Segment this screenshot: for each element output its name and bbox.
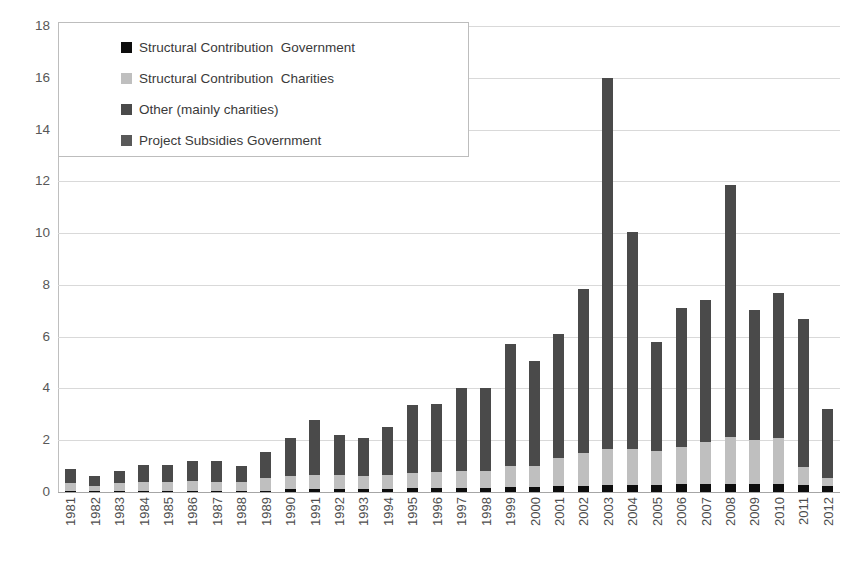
stacked-bar — [162, 465, 173, 492]
x-axis-tick-cell: 1999 — [498, 495, 522, 557]
bar-segment — [822, 409, 833, 478]
bar-segment — [114, 483, 125, 491]
bar-segment — [651, 485, 662, 492]
bar-segment — [553, 486, 564, 492]
bar-segment — [309, 489, 320, 492]
x-axis-tick-cell: 2003 — [596, 495, 620, 557]
x-axis-tick-cell: 1992 — [327, 495, 351, 557]
bar-column — [596, 26, 620, 492]
bar-segment — [553, 458, 564, 486]
x-axis-tick-label: 2007 — [699, 497, 712, 526]
y-axis-tick-label: 4 — [6, 382, 50, 396]
legend-item[interactable]: Project Subsidies Government — [59, 125, 468, 156]
bar-segment — [431, 404, 442, 472]
x-axis-tick-cell: 1995 — [400, 495, 424, 557]
x-axis-tick-label: 1987 — [210, 497, 223, 526]
bar-segment — [798, 467, 809, 485]
x-axis-tick-label: 2005 — [650, 497, 663, 526]
bar-segment — [162, 482, 173, 491]
bar-column — [693, 26, 717, 492]
bar-segment — [382, 427, 393, 474]
bar-segment — [578, 486, 589, 492]
bar-segment — [578, 453, 589, 485]
stacked-bar — [822, 409, 833, 492]
bar-column — [473, 26, 497, 492]
bar-segment — [187, 481, 198, 491]
bar-segment — [334, 435, 345, 475]
x-axis-tick-cell: 2011 — [791, 495, 815, 557]
bar-segment — [431, 472, 442, 488]
stacked-bar — [676, 308, 687, 492]
bar-column — [645, 26, 669, 492]
bar-segment — [651, 451, 662, 485]
x-axis-tick-cell: 2006 — [669, 495, 693, 557]
x-axis-tick-cell: 2012 — [816, 495, 840, 557]
stacked-bar — [749, 310, 760, 493]
x-axis-tick-cell: 1993 — [351, 495, 375, 557]
x-axis-tick-cell: 2002 — [571, 495, 595, 557]
legend-item-label: Other (mainly charities) — [139, 103, 279, 117]
bar-segment — [627, 449, 638, 485]
x-axis-tick-cell: 2004 — [620, 495, 644, 557]
stacked-bar — [334, 435, 345, 492]
bar-segment — [260, 452, 271, 478]
legend-item-label: Project Subsidies Government — [139, 134, 321, 148]
x-axis-tick-cell: 2001 — [547, 495, 571, 557]
bar-segment — [773, 438, 784, 485]
bar-segment — [602, 449, 613, 485]
bar-segment — [236, 491, 247, 492]
x-axis-tick-label: 1985 — [161, 497, 174, 526]
legend-item[interactable]: Other (mainly charities) — [59, 94, 468, 125]
x-axis-tick-cell: 1991 — [302, 495, 326, 557]
y-axis-tick-label: 14 — [6, 123, 50, 137]
bar-column — [767, 26, 791, 492]
bar-segment — [676, 308, 687, 447]
stacked-bar — [114, 471, 125, 492]
bar-segment — [65, 491, 76, 492]
y-axis-tick-label: 18 — [6, 19, 50, 33]
stacked-bar — [187, 461, 198, 492]
stacked-bar — [725, 185, 736, 492]
bar-segment — [602, 485, 613, 492]
y-axis-tick-labels: 181614121086420 — [0, 26, 50, 493]
bar-segment — [358, 489, 369, 492]
x-axis-tick-cell: 1998 — [473, 495, 497, 557]
stacked-bar — [89, 476, 100, 492]
bar-segment — [285, 476, 296, 489]
bar-segment — [407, 473, 418, 489]
bar-segment — [89, 476, 100, 486]
bar-column — [718, 26, 742, 492]
legend-item[interactable]: Structural Contribution Government — [59, 32, 468, 63]
stacked-bar — [431, 404, 442, 492]
bar-segment — [627, 232, 638, 449]
x-axis-tick-label: 2008 — [724, 497, 737, 526]
bar-segment — [211, 491, 222, 492]
bar-segment — [407, 405, 418, 472]
bar-segment — [700, 484, 711, 492]
x-axis-tick-cell: 1994 — [376, 495, 400, 557]
y-axis-tick-label: 12 — [6, 175, 50, 189]
x-axis-tick-cell: 1981 — [58, 495, 82, 557]
bar-column — [669, 26, 693, 492]
bar-column — [522, 26, 546, 492]
x-axis-tick-label: 1999 — [504, 497, 517, 526]
legend-item[interactable]: Structural Contribution Charities — [59, 63, 468, 94]
square-swatch — [121, 104, 132, 115]
x-axis-tick-label: 2002 — [577, 497, 590, 526]
stacked-bar — [138, 465, 149, 492]
x-axis-tick-label: 2006 — [675, 497, 688, 526]
x-axis-tick-label: 2003 — [601, 497, 614, 526]
x-axis-tick-label: 1983 — [113, 497, 126, 526]
legend-item-label: Structural Contribution Government — [139, 41, 355, 55]
square-swatch — [121, 42, 132, 53]
bar-segment — [309, 475, 320, 489]
x-axis-tick-label: 1995 — [406, 497, 419, 526]
x-axis-tick-labels: 1981198219831984198519861987198819891990… — [58, 495, 840, 557]
x-axis-tick-label: 1988 — [235, 497, 248, 526]
x-axis-tick-label: 2009 — [748, 497, 761, 526]
bar-segment — [700, 300, 711, 442]
chart-legend: Structural Contribution GovernmentStruct… — [58, 22, 469, 157]
x-axis-tick-cell: 2007 — [693, 495, 717, 557]
figure-caption — [0, 554, 848, 564]
x-axis-tick-cell: 1996 — [425, 495, 449, 557]
